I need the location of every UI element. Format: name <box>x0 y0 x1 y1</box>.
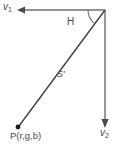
point-marker-p <box>16 125 21 130</box>
label-v1-subscript: 1 <box>8 6 12 13</box>
label-v2: v2 <box>100 128 109 138</box>
label-saturation: S' <box>57 70 65 79</box>
label-v2-subscript: 2 <box>105 132 109 139</box>
label-hue-angle: H <box>67 17 74 27</box>
label-point-p: P(r,g,b) <box>10 131 41 141</box>
saturation-ray-line <box>19 10 105 126</box>
hue-angle-arc <box>88 10 95 24</box>
vector-diagram: v1 v2 H S' P(r,g,b) <box>0 0 116 159</box>
v1-arrowhead-icon <box>17 6 25 13</box>
label-v1: v1 <box>3 2 12 12</box>
